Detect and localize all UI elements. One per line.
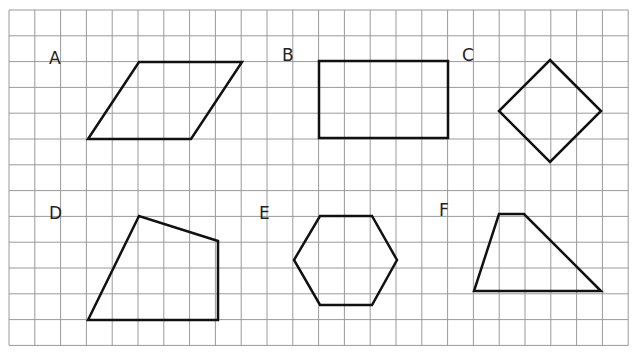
- parallelogram-outline: [88, 62, 242, 139]
- square-rotated-outline: [499, 60, 601, 162]
- shape-b-rectangle: B: [282, 45, 448, 138]
- shapes: ABCDEF: [49, 45, 601, 320]
- shape-label: C: [462, 45, 474, 65]
- shape-c-square-rotated: C: [462, 45, 601, 162]
- shape-label: E: [259, 203, 270, 223]
- hexagon-outline: [294, 216, 397, 305]
- shape-d-irregular-quadrilateral: D: [49, 203, 218, 320]
- shape-label: A: [49, 48, 61, 68]
- rectangle-outline: [319, 61, 448, 138]
- shape-label: D: [49, 203, 62, 223]
- trapezoid-outline: [474, 214, 601, 291]
- shape-label: B: [282, 45, 294, 65]
- shape-e-hexagon: E: [259, 203, 397, 305]
- shape-grid-diagram: ABCDEF: [0, 0, 634, 354]
- shape-label: F: [439, 200, 449, 220]
